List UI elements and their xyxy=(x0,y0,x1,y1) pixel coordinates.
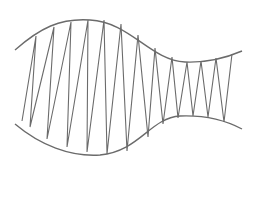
zigzag-line xyxy=(22,20,232,154)
fish-zigzag-figure xyxy=(0,0,266,200)
diagram-canvas xyxy=(0,0,266,200)
top-curve xyxy=(15,20,242,62)
